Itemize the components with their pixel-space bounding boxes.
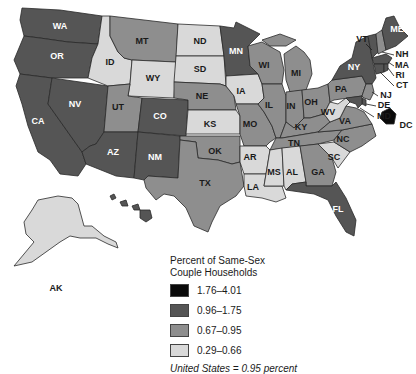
label-MT: MT — [136, 36, 149, 46]
label-CA: CA — [32, 116, 45, 126]
legend-swatch — [170, 344, 189, 357]
legend-label: 0.29–0.66 — [197, 345, 242, 356]
legend-title-line1: Percent of Same-Sex — [170, 255, 330, 267]
legend-label: 0.96–1.75 — [197, 305, 242, 316]
label-GA: GA — [311, 167, 325, 177]
label-TX: TX — [199, 178, 211, 188]
label-SD: SD — [194, 64, 207, 74]
label-PA: PA — [335, 84, 347, 94]
label-OK: OK — [208, 146, 222, 156]
label-ND: ND — [194, 36, 207, 46]
label-CT: CT — [396, 80, 408, 90]
legend-swatch — [170, 304, 189, 317]
label-DC: DC — [400, 120, 413, 130]
legend-title-line2: Couple Households — [170, 267, 330, 279]
label-WA: WA — [53, 21, 68, 31]
label-NY: NY — [348, 62, 361, 72]
state-FL[interactable] — [286, 182, 356, 236]
label-AR: AR — [244, 152, 257, 162]
label-DE: DE — [378, 100, 391, 110]
label-VA: VA — [339, 116, 351, 126]
label-IA: IA — [237, 86, 247, 96]
label-UT: UT — [112, 102, 124, 112]
label-MA: MA — [395, 60, 409, 70]
label-AZ: AZ — [107, 147, 119, 157]
label-OR: OR — [50, 51, 64, 61]
legend: Percent of Same-Sex Couple Households 1.… — [170, 255, 330, 374]
label-MS: MS — [267, 167, 281, 177]
legend-item: 0.96–1.75 — [170, 301, 330, 319]
label-OH: OH — [304, 97, 318, 107]
label-MN: MN — [229, 46, 243, 56]
label-SC: SC — [328, 152, 341, 162]
label-NJ: NJ — [380, 90, 392, 100]
state-RI[interactable] — [384, 64, 388, 72]
label-TN: TN — [288, 138, 300, 148]
label-MI: MI — [291, 68, 301, 78]
label-WV: WV — [321, 107, 336, 117]
label-FL: FL — [333, 204, 344, 214]
legend-item: 0.29–0.66 — [170, 341, 330, 359]
label-NM: NM — [148, 152, 162, 162]
label-NH: NH — [396, 49, 409, 59]
state-AK[interactable] — [14, 196, 118, 266]
state-DE[interactable] — [362, 98, 366, 106]
label-WI: WI — [259, 60, 270, 70]
label-HI: HI — [122, 212, 131, 222]
label-CO: CO — [153, 111, 167, 121]
legend-label: 0.67–0.95 — [197, 325, 242, 336]
label-VT: VT — [356, 34, 368, 44]
label-MO: MO — [243, 119, 258, 129]
label-IL: IL — [265, 100, 274, 110]
label-ID: ID — [106, 57, 116, 67]
legend-item: 0.67–0.95 — [170, 321, 330, 339]
label-MD: MD — [377, 111, 391, 121]
label-NC: NC — [337, 134, 350, 144]
label-AL: AL — [286, 167, 298, 177]
label-WY: WY — [146, 73, 161, 83]
label-IN: IN — [287, 101, 296, 111]
legend-note: United States = 0.95 percent — [170, 363, 330, 374]
legend-swatch — [170, 284, 189, 297]
label-RI: RI — [396, 70, 405, 80]
legend-item: 1.76–4.01 — [170, 281, 330, 299]
state-HI[interactable] — [110, 194, 152, 222]
label-NV: NV — [69, 99, 82, 109]
label-NE: NE — [196, 91, 209, 101]
state-CT[interactable] — [374, 64, 384, 74]
label-KY: KY — [295, 122, 308, 132]
label-AK: AK — [50, 283, 63, 293]
legend-label: 1.76–4.01 — [197, 285, 242, 296]
label-ME: ME — [390, 24, 404, 34]
label-KS: KS — [204, 119, 217, 129]
legend-swatch — [170, 324, 189, 337]
label-LA: LA — [247, 182, 259, 192]
